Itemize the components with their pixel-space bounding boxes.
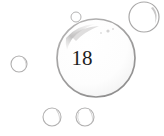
speck-a-icon [106,29,109,32]
speck-b-icon [112,28,114,30]
bubble-bottom-right [76,108,94,126]
bubble-bottom-left [43,108,61,126]
bubble-left [11,56,27,72]
illustration-canvas: 18 [0,0,164,136]
bubbles-artwork [0,0,164,136]
bubble-top-small [71,12,81,22]
main-bubble-body [57,19,135,97]
bubble-top-right [129,2,159,32]
speck-c-icon [100,32,102,34]
